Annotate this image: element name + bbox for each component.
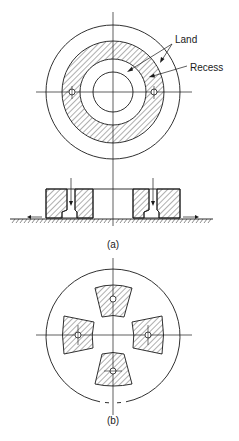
- left-block-section: [46, 189, 93, 218]
- bearing-diagram: Land Recess (a): [0, 0, 239, 441]
- right-block-section: [133, 189, 180, 218]
- view-a-plan: Land Recess: [36, 12, 223, 182]
- supply-arrow-right: [151, 201, 155, 206]
- recess-label: Recess: [190, 62, 223, 73]
- caption-b: (b): [107, 415, 119, 426]
- flow-arrow-left: [27, 215, 31, 219]
- supply-arrow-left: [69, 201, 73, 206]
- caption-a: (a): [107, 239, 119, 250]
- view-b-plan: (b): [36, 258, 192, 426]
- land-label: Land: [175, 34, 197, 45]
- view-a-section: (a): [10, 178, 213, 250]
- flow-arrow-right: [195, 215, 199, 219]
